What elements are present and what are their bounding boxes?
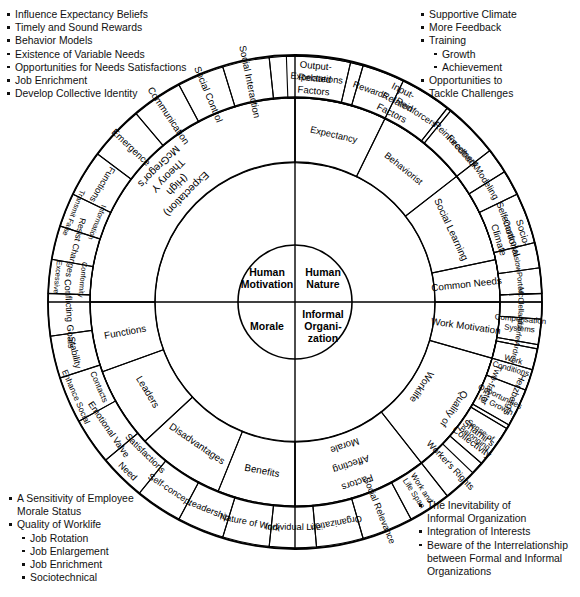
core-quadrant-informal-organization[interactable]: InformalOrgani-zation — [302, 308, 344, 343]
segment-label: Emotional Valve — [86, 399, 131, 459]
segment-label: Systems — [504, 323, 535, 335]
segment-label: Worker's Rights — [425, 438, 477, 492]
segment-label: Expectancy — [309, 124, 358, 145]
segment-label: Work Motivation — [430, 315, 501, 336]
human-behavior-wheel: ExpectationsRewardsReinforcersReinforcem… — [0, 0, 580, 597]
core-hub: HumanMotivationHumanNatureMoraleInformal… — [48, 55, 542, 549]
segment-label: Leaders — [134, 374, 162, 410]
segment-label: Affecting — [331, 453, 370, 476]
core-quadrant-label: Human — [249, 266, 285, 278]
core-quadrant-label: Human — [305, 266, 341, 278]
segment-label: Social Control — [192, 64, 225, 123]
core-quadrant-morale[interactable]: Morale — [250, 320, 284, 332]
segment-label: Functions — [103, 323, 147, 341]
core-quadrant-label: Informal — [302, 308, 344, 320]
core-quadrant-label: Morale — [250, 320, 284, 332]
segment-label: Need — [116, 460, 139, 483]
core-quadrant-label: zation — [308, 332, 338, 344]
segment-label: Common Needs — [431, 275, 503, 293]
core-quadrant-human-nature[interactable]: HumanNature — [305, 266, 341, 290]
core-quadrant-label: Motivation — [241, 278, 294, 290]
segment-label: Contacts — [88, 370, 110, 404]
segment-label: Disadvantages — [167, 421, 227, 467]
core-quadrant-label: Organi- — [304, 320, 342, 332]
segment-label: Morale — [328, 436, 360, 456]
segment-label: Functions — [87, 165, 117, 205]
core-quadrant-label: Nature — [306, 278, 339, 290]
segment-label: Communication — [146, 85, 192, 146]
segment-label: Related — [298, 71, 332, 85]
segment-label: Conflicting Goals — [62, 279, 76, 349]
segment-label: Output- — [299, 59, 332, 73]
segment-label: Social Interaction — [237, 44, 262, 118]
segment-label: Excessive — [51, 260, 63, 294]
segment-label: Factors — [297, 84, 330, 98]
segment-label: Conformity — [76, 262, 89, 299]
segment-label: Benefits — [244, 462, 281, 480]
segment-label: Social Learning — [432, 197, 471, 263]
segment-label: Behaviorist — [383, 150, 425, 187]
segment-label: Feedback — [445, 132, 482, 171]
segment-label: Worklife — [407, 369, 436, 405]
